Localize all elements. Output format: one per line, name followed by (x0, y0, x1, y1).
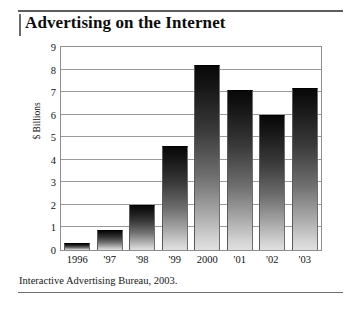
y-tick-label: 7 (51, 87, 56, 98)
bar-99 (162, 146, 188, 250)
x-axis-ticks: 1996'97'98'992000'01'02'03 (60, 253, 322, 269)
plot-area (60, 46, 322, 251)
bar-2000 (194, 65, 220, 250)
bar-98 (129, 205, 155, 250)
y-tick-label: 8 (51, 64, 56, 75)
source-caption: Interactive Advertising Bureau, 2003. (19, 274, 177, 287)
bar-series (61, 47, 321, 250)
bar-97 (97, 230, 123, 250)
chart-figure: Advertising on the Internet 0123456789 $… (0, 0, 361, 309)
y-tick-label: 3 (51, 177, 56, 188)
y-tick-label: 0 (51, 245, 56, 256)
x-tick-label: '98 (136, 253, 148, 266)
x-tick-label: 2000 (197, 253, 218, 266)
title-left-rule (19, 14, 21, 36)
x-tick-label: '97 (104, 253, 116, 266)
y-tick-label: 6 (51, 109, 56, 120)
y-axis-label: $ Billions (32, 81, 42, 161)
y-tick-label: 9 (51, 42, 56, 53)
x-tick-label: '02 (266, 253, 278, 266)
bottom-divider-rule (18, 292, 343, 293)
bar-02 (259, 115, 285, 250)
bar-01 (227, 90, 253, 250)
x-tick-label: '03 (299, 253, 311, 266)
y-tick-label: 4 (51, 154, 56, 165)
bar-1996 (64, 243, 90, 250)
bar-03 (292, 88, 318, 250)
x-tick-label: 1996 (67, 253, 88, 266)
y-tick-label: 5 (51, 132, 56, 143)
y-tick-label: 1 (51, 222, 56, 233)
x-tick-label: '99 (169, 253, 181, 266)
y-tick-label: 2 (51, 199, 56, 210)
page-title: Advertising on the Internet (25, 12, 226, 34)
x-tick-label: '01 (234, 253, 246, 266)
